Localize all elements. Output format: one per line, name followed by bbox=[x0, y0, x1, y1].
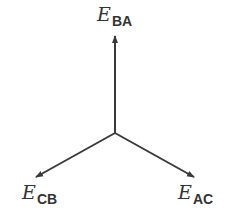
label-e-ba-symbol: E bbox=[97, 3, 111, 25]
label-e-ac: EAC bbox=[178, 183, 213, 202]
label-e-ba: EBA bbox=[97, 5, 132, 24]
label-e-ac-symbol: E bbox=[178, 181, 192, 203]
phasor-ac-arrow bbox=[115, 133, 194, 177]
label-e-ac-subscript: AC bbox=[193, 191, 213, 207]
label-e-cb-subscript: CB bbox=[37, 191, 57, 207]
label-e-cb-symbol: E bbox=[22, 181, 36, 203]
phasor-cb-arrow bbox=[36, 133, 115, 177]
phasor-diagram bbox=[0, 0, 225, 211]
label-e-cb: ECB bbox=[22, 183, 57, 202]
label-e-ba-subscript: BA bbox=[112, 13, 132, 29]
